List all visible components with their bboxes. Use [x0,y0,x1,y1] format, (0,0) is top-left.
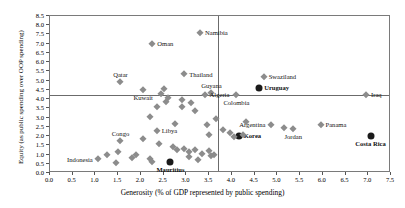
x-axis-tick [390,172,391,175]
data-point-oman [148,40,156,48]
data-point-label: Colombia [223,99,249,106]
data-point [203,121,211,129]
x-axis-tick-label: 1.5 [113,176,121,183]
data-point-kuwait [139,86,147,94]
data-point [194,156,202,164]
x-axis-tick-label: 1.0 [90,176,98,183]
data-point-namibia [196,29,204,37]
x-axis-tick-label: 2.5 [159,176,167,183]
y-axis-tick-label: 3.5 [36,104,44,111]
x-axis-tick-label: 5.0 [272,176,280,183]
data-point-libya [153,127,161,135]
x-axis-tick [72,172,73,175]
y-axis-tick-label: 8.5 [36,12,44,19]
data-point [112,159,120,167]
data-point [139,135,147,143]
data-point-label: Guyana [201,82,222,89]
x-axis-tick-label: 3.0 [181,176,189,183]
data-point-label: Indonesia [67,156,93,163]
data-point-argentina [267,121,275,129]
data-point [103,152,111,160]
data-point-label: Swaziland [269,73,296,80]
data-point-label: Thailand [189,71,212,78]
y-axis-tick-label: 1.0 [36,150,44,157]
data-point-label: Qatar [113,71,128,78]
x-axis-tick-label: 0.5 [68,176,76,183]
data-point [146,113,154,121]
data-point-label: Libya [162,127,177,134]
data-point-label: Congo [112,130,130,137]
y-axis-tick-label: 5.5 [36,67,44,74]
x-axis-tick-label: 0.0 [45,176,53,183]
scatter-chart: Equity (as public spending over OOP spen… [0,0,405,208]
data-point [187,99,195,107]
x-axis-tick-label: 4.5 [249,176,257,183]
y-axis-tick-label: 7.5 [36,30,44,37]
data-point [114,148,122,156]
y-axis-tick-label: 6.5 [36,48,44,55]
data-point-label: Iraq [371,91,382,98]
data-point [155,141,163,149]
data-point-colombia [233,91,241,99]
x-axis-tick [117,172,118,175]
y-axis-tick-label: 2.0 [36,132,44,139]
data-point [192,107,200,115]
data-point-costa-rica [367,133,374,140]
data-point-mauritius [167,158,174,165]
data-point-jordan [289,125,297,133]
data-point-label: Uruguay [264,84,289,91]
data-point [185,153,193,161]
x-axis-tick-label: 2.0 [136,176,144,183]
x-axis-tick [276,172,277,175]
y-axis-tick-label: 2.5 [36,122,44,129]
plot-area: NamibiaOmanQatarThailandKuwaitGuyanaSwaz… [49,15,390,172]
y-axis-tick-label: 3.0 [36,113,44,120]
data-point-panama [317,121,325,129]
y-axis-title: Equity (as public spending over OOP spen… [17,12,25,182]
data-point-label: Algeria [210,91,230,98]
x-axis-title: Generosity (% of GDP represented by publ… [0,188,405,197]
data-point-congo [117,137,125,145]
y-axis-tick [46,172,49,173]
y-axis-tick-label: 6.0 [36,58,44,65]
y-axis-tick-label: 0.0 [36,169,44,176]
x-axis-tick-label: 4.0 [227,176,235,183]
x-axis-tick-label: 6.5 [340,176,348,183]
x-axis-tick-label: 7.0 [363,176,371,183]
y-axis-tick-label: 4.0 [36,95,44,102]
data-point-label: Kuwait [133,94,152,101]
data-point [205,131,213,139]
x-axis-tick [345,172,346,175]
x-axis-tick [299,172,300,175]
data-point-swaziland [260,73,268,81]
y-axis-tick-label: 7.0 [36,39,44,46]
y-axis-tick-label: 5.0 [36,76,44,83]
x-axis-tick-label: 5.5 [295,176,303,183]
y-axis-tick-label: 0.5 [36,159,44,166]
data-point [148,158,156,166]
x-axis-tick [208,172,209,175]
y-axis-tick-label: 4.5 [36,85,44,92]
data-point-label: Oman [157,40,173,47]
data-point-uruguay [256,85,263,92]
data-point-indonesia [94,155,102,163]
data-point-label: Mauritius [156,166,184,173]
x-axis-tick-label: 6.0 [318,176,326,183]
x-axis-tick [185,172,186,175]
x-axis-tick [140,172,141,175]
data-point-label: Costa Rica [355,140,386,147]
x-axis-tick [367,172,368,175]
data-point-label: Panama [326,121,347,128]
data-point [280,124,288,132]
data-point [173,146,181,154]
data-point [153,104,161,112]
x-axis-tick [231,172,232,175]
data-point-qatar [117,79,125,87]
x-axis-tick [322,172,323,175]
data-point [178,104,186,112]
x-axis-tick [94,172,95,175]
x-axis-tick-label: 3.5 [204,176,212,183]
data-point-iraq [362,91,370,99]
x-axis-tick [254,172,255,175]
y-axis-tick-label: 8.0 [36,21,44,28]
